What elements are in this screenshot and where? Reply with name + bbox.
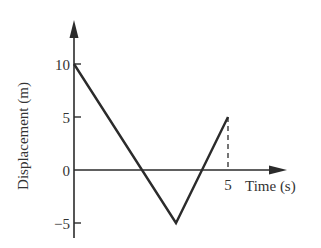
y-tick-label-neg5: −5 bbox=[54, 216, 70, 232]
displacement-line bbox=[74, 64, 228, 223]
y-tick-label-10: 10 bbox=[55, 57, 70, 73]
x-tick-label-5: 5 bbox=[224, 177, 232, 193]
y-axis-label: Displacement (m) bbox=[15, 82, 32, 190]
y-tick-label-0: 0 bbox=[63, 163, 71, 179]
y-axis-arrow-icon bbox=[70, 20, 79, 38]
y-ticks bbox=[74, 64, 81, 223]
x-axis-label: Time (s) bbox=[245, 178, 296, 195]
x-axis-arrow-icon bbox=[269, 166, 287, 175]
displacement-time-chart: 10 5 0 −5 5 Time (s) Displacement (m) bbox=[0, 0, 321, 248]
y-tick-label-5: 5 bbox=[63, 110, 71, 126]
